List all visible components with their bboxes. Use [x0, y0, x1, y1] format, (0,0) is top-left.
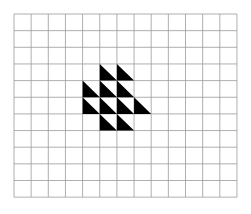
figure-canvas — [0, 0, 251, 214]
grid-triangle-figure — [0, 0, 251, 214]
